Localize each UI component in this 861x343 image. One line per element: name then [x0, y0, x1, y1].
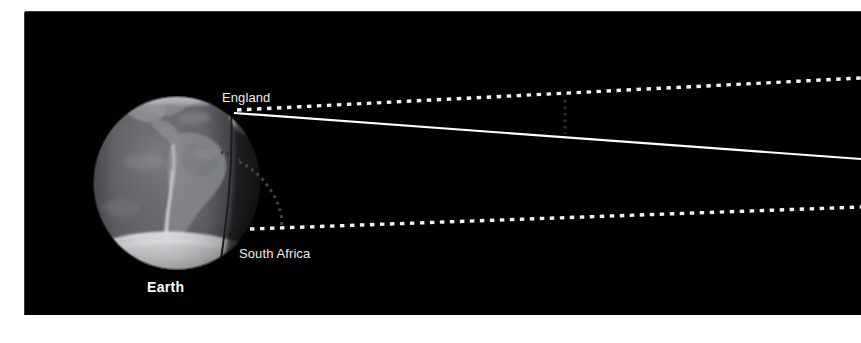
label-england: England — [222, 90, 270, 105]
earth-globe — [86, 12, 325, 315]
upper-dotted-sightline — [237, 78, 861, 110]
solid-sightline — [234, 113, 861, 159]
figure-root: England South Africa Earth — [0, 0, 861, 343]
globe-surface — [86, 12, 325, 315]
scene-graphics — [25, 12, 861, 315]
lower-dotted-sightline — [250, 207, 861, 229]
label-earth: Earth — [147, 279, 184, 295]
label-south-africa: South Africa — [239, 246, 310, 261]
night-sky-panel — [25, 12, 861, 315]
